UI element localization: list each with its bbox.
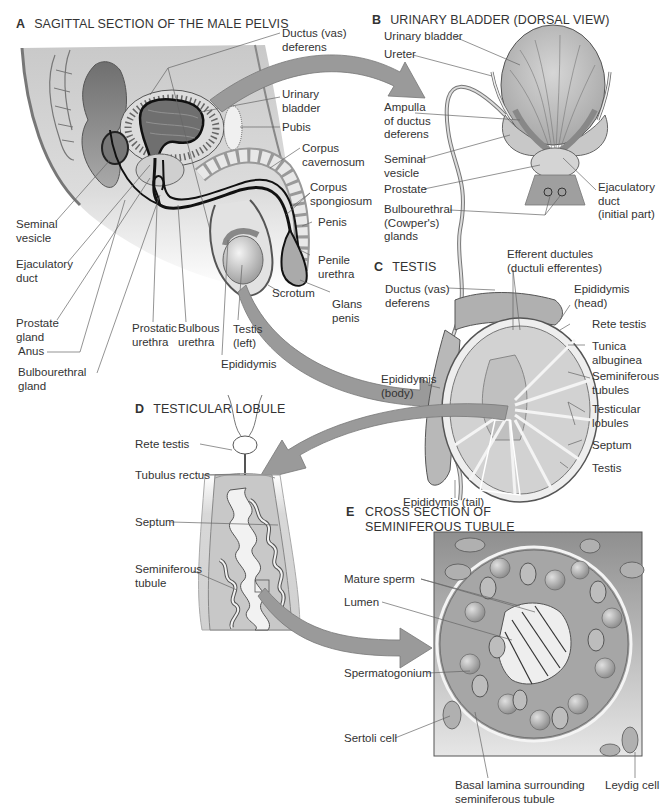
label-d-rete-testis: Rete testis xyxy=(135,438,189,452)
label-a-corpus-cavernosum: Corpus cavernosum xyxy=(302,142,365,169)
panel-b-title-text: URINARY BLADDER (DORSAL VIEW) xyxy=(390,13,609,27)
label-c-testis: Testis xyxy=(592,462,621,476)
panel-d-title-text: TESTICULAR LOBULE xyxy=(153,402,285,416)
label-a-ductus-deferens: Ductus (vas) deferens xyxy=(282,27,347,54)
panel-d-title: DTESTICULAR LOBULE xyxy=(135,402,285,416)
panel-a-letter: A xyxy=(16,17,25,31)
label-c-efferent-ductules: Efferent ductules (ductuli efferentes) xyxy=(507,248,602,275)
panel-e-letter: E xyxy=(346,505,354,519)
label-d-seminiferous-tubule: Seminiferous tubule xyxy=(135,563,202,590)
panel-d-letter: D xyxy=(135,402,144,416)
label-a-prostatic-urethra: Prostatic urethra xyxy=(132,322,177,349)
label-e-lumen: Lumen xyxy=(344,596,379,610)
testis-drawing xyxy=(425,270,598,502)
panel-a-title-text: SAGITTAL SECTION OF THE MALE PELVIS xyxy=(34,17,288,31)
label-a-seminal-vesicle: Seminal vesicle xyxy=(16,218,58,245)
panel-c-title: CTESTIS xyxy=(374,260,437,274)
label-b-ureter: Ureter xyxy=(384,48,416,62)
label-c-epididymis-tail: Epididymis (tail) xyxy=(403,496,484,510)
panel-c-letter: C xyxy=(374,260,383,274)
label-e-spermatogonium: Spermatogonium xyxy=(344,667,432,681)
label-c-ductus-deferens: Ductus (vas) deferens xyxy=(385,283,450,310)
label-c-testicular-lobules: Testicular lobules xyxy=(592,403,641,430)
label-b-urinary-bladder: Urinary bladder xyxy=(384,30,463,44)
anatomy-illustration xyxy=(0,0,667,808)
lobule-drawing xyxy=(171,395,300,630)
label-c-tunica-albuginea: Tunica albuginea xyxy=(592,340,642,367)
label-b-prostate: Prostate xyxy=(384,183,427,197)
label-a-pubis: Pubis xyxy=(282,121,311,135)
label-a-ejaculatory-duct: Ejaculatory duct xyxy=(16,258,73,285)
label-c-seminiferous-tubules: Seminiferous tubules xyxy=(592,370,659,397)
label-a-scrotum: Scrotum xyxy=(272,287,315,301)
panel-e-title: ECROSS SECTION OF SEMINIFEROUS TUBULE xyxy=(346,505,556,535)
label-a-bulbous-urethra: Bulbous urethra xyxy=(178,322,220,349)
panel-e-title-text: CROSS SECTION OF SEMINIFEROUS TUBULE xyxy=(365,505,556,535)
label-b-bulbourethral-glands: Bulbourethral (Cowper's) glands xyxy=(384,203,452,244)
label-a-glans-penis: Glans penis xyxy=(332,298,362,325)
label-e-sertoli-cell: Sertoli cell xyxy=(344,732,397,746)
label-c-epididymis-body: Epididymis (body) xyxy=(381,373,437,400)
label-a-testis-left: Testis (left) xyxy=(233,323,262,350)
label-a-epididymis: Epididymis xyxy=(221,358,277,372)
label-b-seminal-vesicle: Seminal vesicle xyxy=(384,153,426,180)
panel-a-title: ASAGITTAL SECTION OF THE MALE PELVIS xyxy=(16,17,289,31)
panel-b-title: BURINARY BLADDER (DORSAL VIEW) xyxy=(372,13,610,27)
label-d-tubulus-rectus: Tubulus rectus xyxy=(135,469,210,483)
panel-b-letter: B xyxy=(372,13,381,27)
label-d-septum: Septum xyxy=(135,516,175,530)
label-a-penile-urethra: Penile urethra xyxy=(318,254,354,281)
label-a-penis: Penis xyxy=(318,216,347,230)
label-e-mature-sperm: Mature sperm xyxy=(344,573,415,587)
label-c-septum: Septum xyxy=(592,439,632,453)
label-a-anus: Anus xyxy=(18,345,44,359)
label-e-basal-lamina: Basal lamina surrounding seminiferous tu… xyxy=(455,779,585,806)
label-a-urinary-bladder: Urinary bladder xyxy=(282,88,320,115)
label-c-rete-testis: Rete testis xyxy=(592,318,646,332)
label-e-leydig-cell: Leydig cell xyxy=(605,779,659,793)
label-a-prostate-gland: Prostate gland xyxy=(16,317,59,344)
label-a-bulbourethral-gland: Bulbourethral gland xyxy=(18,366,86,393)
label-b-ampulla: Ampulla of ductus deferens xyxy=(384,101,431,142)
label-b-ejaculatory-duct: Ejaculatory duct (initial part) xyxy=(598,181,655,222)
panel-c-title-text: TESTIS xyxy=(392,260,436,274)
label-c-epididymis-head: Epididymis (head) xyxy=(574,283,630,310)
label-a-corpus-spongiosum: Corpus spongiosum xyxy=(310,181,372,208)
